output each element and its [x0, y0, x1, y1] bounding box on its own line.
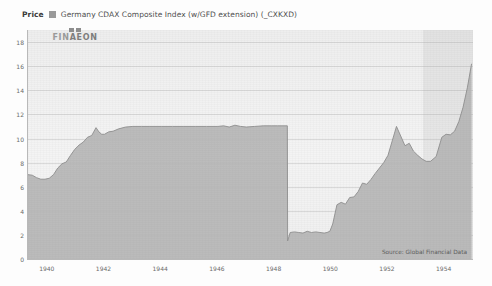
price-axis-label: Price	[22, 10, 44, 19]
y-tick-label: 6	[20, 183, 24, 190]
legend-color-swatch	[49, 11, 56, 18]
finaeon-logo: FINAEON	[44, 28, 106, 42]
x-tick-label: 1942	[96, 265, 111, 272]
x-tick-label: 1950	[323, 265, 338, 272]
y-tick-label: 4	[20, 207, 24, 214]
x-axis: 19401942194419461948195019521954	[27, 261, 472, 277]
logo-word-part2: AEON	[70, 33, 98, 42]
y-tick-label: 10	[16, 135, 24, 142]
y-tick-label: 0	[20, 256, 24, 263]
x-tick-label: 1940	[39, 265, 54, 272]
x-tick-label: 1954	[436, 265, 451, 272]
chart-screenshot: Price Germany CDAX Composite Index (w/GF…	[0, 0, 492, 286]
plot-area: Source: Global Financial Data	[27, 30, 473, 260]
y-tick-label: 16	[16, 63, 24, 70]
x-tick-label: 1946	[209, 265, 224, 272]
logo-blocks-icon	[44, 28, 106, 32]
x-tick-label: 1952	[379, 265, 394, 272]
y-axis: 024681012141618	[0, 30, 24, 259]
chart-header: Price Germany CDAX Composite Index (w/GF…	[22, 10, 297, 19]
x-tick-label: 1944	[153, 265, 168, 272]
y-tick-label: 2	[20, 231, 24, 238]
legend-series-title: Germany CDAX Composite Index (w/GFD exte…	[61, 10, 297, 19]
y-tick-label: 8	[20, 159, 24, 166]
y-tick-label: 12	[16, 111, 24, 118]
source-note: Source: Global Financial Data	[382, 249, 467, 255]
logo-wordmark: FINAEON	[44, 33, 106, 42]
y-tick-label: 18	[16, 39, 24, 46]
series-area-path	[28, 30, 473, 259]
y-tick-label: 14	[16, 87, 24, 94]
x-tick-label: 1948	[266, 265, 281, 272]
logo-word-part1: FIN	[52, 33, 69, 42]
